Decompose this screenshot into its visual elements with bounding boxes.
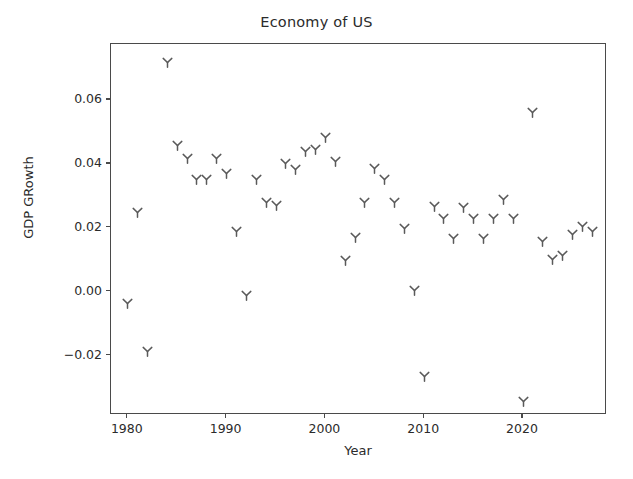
data-point	[537, 236, 548, 247]
data-point	[508, 213, 519, 224]
data-point	[290, 164, 301, 175]
data-point	[518, 396, 529, 407]
y-tick-label: 0.00	[74, 283, 102, 298]
data-point	[587, 226, 598, 237]
data-point	[478, 233, 489, 244]
data-point	[201, 174, 212, 185]
data-point	[320, 132, 331, 143]
data-point	[162, 57, 173, 68]
data-point	[122, 298, 133, 309]
x-tick-label: 1980	[111, 421, 143, 436]
plot-area	[110, 43, 606, 414]
data-point	[498, 194, 509, 205]
data-point	[241, 290, 252, 301]
data-point	[310, 144, 321, 155]
y-tick-mark	[106, 98, 110, 99]
chart-title: Economy of US	[0, 14, 633, 30]
y-tick-mark	[106, 290, 110, 291]
x-tick-label: 2020	[506, 421, 538, 436]
data-point	[251, 174, 262, 185]
y-tick-mark	[106, 226, 110, 227]
data-point	[429, 201, 440, 212]
data-point	[142, 346, 153, 357]
data-point	[488, 213, 499, 224]
data-point	[389, 197, 400, 208]
data-point	[182, 153, 193, 164]
x-tick-label: 1990	[210, 421, 242, 436]
data-point	[458, 202, 469, 213]
data-point	[527, 107, 538, 118]
data-point	[211, 153, 222, 164]
data-point	[409, 285, 420, 296]
y-tick-mark	[106, 162, 110, 163]
x-tick-label: 2000	[309, 421, 341, 436]
data-point	[350, 232, 361, 243]
y-tick-mark	[106, 354, 110, 355]
y-tick-label: 0.04	[74, 155, 102, 170]
matplotlib-figure: Economy of US −0.020.000.020.040.06 1980…	[0, 0, 633, 479]
x-axis-label: Year	[110, 443, 606, 458]
data-point	[271, 200, 282, 211]
y-tick-label: 0.06	[74, 91, 102, 106]
y-tick-label: −0.02	[64, 347, 102, 362]
data-point	[468, 213, 479, 224]
data-point	[379, 174, 390, 185]
x-tick-mark	[225, 414, 226, 418]
x-tick-mark	[521, 414, 522, 418]
scatter-points-layer	[111, 44, 605, 413]
data-point	[438, 213, 449, 224]
x-tick-label: 2010	[407, 421, 439, 436]
data-point	[221, 168, 232, 179]
y-axis-label: GDP GRowth	[21, 118, 36, 278]
data-point	[399, 223, 410, 234]
x-tick-mark	[324, 414, 325, 418]
data-point	[132, 207, 143, 218]
data-point	[330, 156, 341, 167]
data-point	[448, 233, 459, 244]
data-point	[340, 255, 351, 266]
data-point	[231, 226, 242, 237]
data-point	[419, 371, 430, 382]
y-tick-label: 0.02	[74, 219, 102, 234]
x-tick-mark	[126, 414, 127, 418]
data-point	[557, 250, 568, 261]
data-point	[369, 163, 380, 174]
x-tick-mark	[423, 414, 424, 418]
data-point	[172, 140, 183, 151]
data-point	[359, 197, 370, 208]
